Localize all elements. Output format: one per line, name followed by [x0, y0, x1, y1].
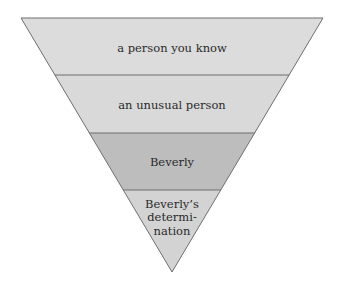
inverted-pyramid-diagram: a person you know an unusual person Beve…: [0, 0, 341, 291]
level-3-label: Beverly: [150, 155, 195, 169]
level-1-label: a person you know: [117, 41, 227, 55]
level-4-label-line-3: nation: [154, 224, 191, 238]
level-4-label-line-2: determi-: [147, 210, 197, 224]
level-2-label: an unusual person: [118, 98, 226, 112]
level-4-label-line-1: Beverly’s: [145, 197, 199, 211]
